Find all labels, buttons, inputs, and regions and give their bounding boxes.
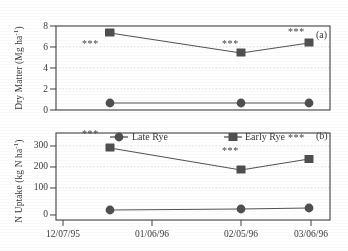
legend-marker-early-rye xyxy=(224,133,242,141)
xtick-label-3: 02/05/96 xyxy=(204,229,278,239)
legend-marker-late-rye xyxy=(110,133,128,142)
xtick-label-4: 03/06/96 xyxy=(274,229,348,239)
panel-b-series-late-rye-line xyxy=(110,208,309,210)
panel-b-gridlines xyxy=(56,146,330,188)
panel-b-y-ticks xyxy=(50,146,56,215)
xtick-label-2: 01/06/96 xyxy=(115,229,189,239)
xtick-label-1: 12/07/95 xyxy=(26,229,100,239)
panel-b-x-ticks xyxy=(63,220,311,226)
panel-b-series-early-rye-markers xyxy=(106,144,314,174)
panel-b-plot-area xyxy=(0,0,348,251)
figure-two-panel-rye-chart: Dry Matter (Mg ha-1) 0 2 4 6 8 (a) *** *… xyxy=(0,0,348,251)
